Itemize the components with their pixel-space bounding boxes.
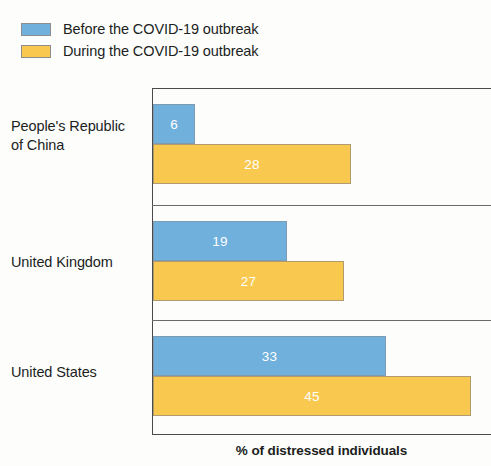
legend-item-during: During the COVID-19 outbreak: [21, 40, 351, 62]
distress-bar-chart: Before the COVID-19 outbreak During the …: [0, 0, 491, 466]
legend-item-before: Before the COVID-19 outbreak: [21, 18, 351, 40]
bar-value-uk-during: 27: [241, 274, 256, 289]
x-axis-caption: % of distressed individuals: [152, 443, 491, 458]
bar-uk-before: 19: [153, 221, 287, 261]
bar-us-before: 33: [153, 336, 386, 376]
legend-swatch-before-icon: [21, 23, 51, 36]
bar-uk-during: 27: [153, 261, 344, 301]
bar-group-china: 6 28: [153, 88, 491, 205]
category-label-china: People's Republic of China: [11, 117, 151, 155]
bar-value-china-during: 28: [244, 157, 259, 172]
legend-label-during: During the COVID-19 outbreak: [63, 43, 258, 59]
bar-value-china-before: 6: [170, 117, 178, 132]
bar-value-uk-before: 19: [212, 234, 227, 249]
category-label-united-states: United States: [11, 363, 151, 382]
bar-china-before: 6: [153, 104, 195, 144]
chart-legend: Before the COVID-19 outbreak During the …: [21, 18, 351, 62]
bar-group-united-states: 33 45: [153, 320, 491, 435]
bar-group-united-kingdom: 19 27: [153, 205, 491, 320]
plot-area: 6 28 19 27 33 45: [152, 88, 491, 435]
legend-label-before: Before the COVID-19 outbreak: [63, 21, 258, 37]
bar-value-us-during: 45: [304, 389, 319, 404]
bar-china-during: 28: [153, 144, 351, 184]
bar-value-us-before: 33: [262, 349, 277, 364]
category-label-china-line2: of China: [11, 136, 151, 155]
legend-swatch-during-icon: [21, 45, 51, 58]
bar-us-during: 45: [153, 376, 471, 416]
category-label-united-kingdom: United Kingdom: [11, 253, 151, 272]
category-label-china-line1: People's Republic: [11, 117, 151, 136]
